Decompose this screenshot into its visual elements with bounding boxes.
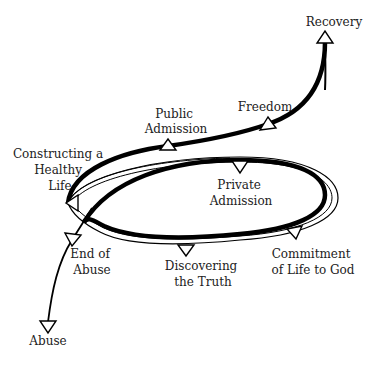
- label-recovery: Recovery: [306, 15, 363, 29]
- label-discovering-the-truth: Discovering the Truth: [165, 259, 241, 289]
- path-loop-inner-top: [84, 160, 325, 222]
- path-left-thin: [70, 158, 230, 198]
- marker-commitment-icon: [287, 226, 302, 239]
- label-public-admission: Public Admission: [144, 107, 208, 136]
- marker-private-admission-icon: [232, 161, 248, 173]
- marker-discovering-truth-icon: [178, 245, 194, 256]
- recovery-spiral-diagram: Recovery Freedom Public Admission Constr…: [0, 0, 372, 366]
- label-commitment-of-life-to-god: Commitment of Life to God: [272, 247, 355, 277]
- label-abuse: Abuse: [28, 334, 66, 348]
- label-private-admission: Private Admission: [209, 178, 273, 208]
- marker-end-of-abuse-icon: [65, 233, 81, 246]
- marker-abuse-icon: [40, 321, 56, 333]
- marker-recovery-icon: [317, 31, 333, 43]
- label-end-of-abuse: End of Abuse: [70, 247, 113, 277]
- label-freedom: Freedom: [238, 100, 293, 114]
